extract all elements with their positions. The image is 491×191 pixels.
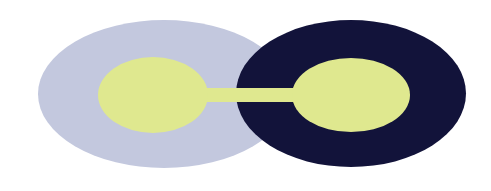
- left-inner-ellipse: [98, 57, 208, 133]
- image-canvas: Two overlapping ellipses joined by a bar: [0, 0, 491, 191]
- right-inner-ellipse: [292, 58, 410, 132]
- abstract-figure: Two overlapping ellipses joined by a bar: [0, 0, 491, 191]
